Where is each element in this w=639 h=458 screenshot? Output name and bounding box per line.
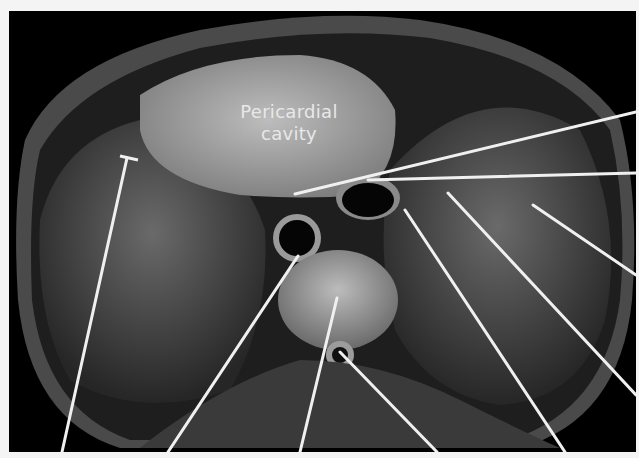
anatomy-drawing (9, 11, 636, 452)
label-line-1: Pericardial (214, 101, 364, 123)
thorax-cross-section-photo: Pericardial cavity (9, 11, 636, 452)
pericardial-cavity-label: Pericardial cavity (214, 101, 364, 145)
label-line-2: cavity (214, 123, 364, 145)
